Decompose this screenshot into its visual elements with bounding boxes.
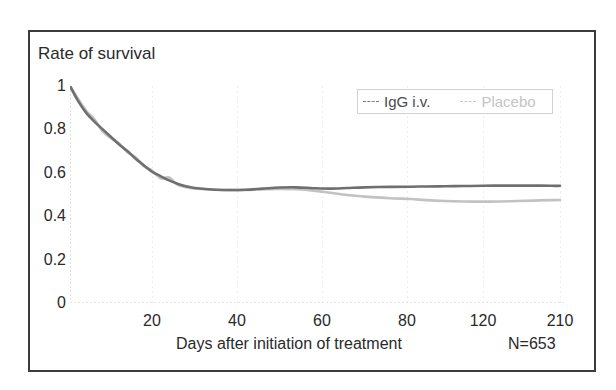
y-tick-label: 0 <box>32 295 66 311</box>
legend: IgG i.v. Placebo <box>357 89 553 114</box>
x-tick-label: 40 <box>228 312 246 330</box>
y-axis-title: Rate of survival <box>38 44 155 64</box>
y-tick-label: 0.2 <box>32 252 66 268</box>
legend-label-igg: IgG i.v. <box>384 94 430 110</box>
legend-dash-icon <box>363 101 379 102</box>
plot-area <box>70 86 566 303</box>
y-tick-label: 0.8 <box>32 121 66 137</box>
gridlines <box>153 86 561 303</box>
x-tick-label: 80 <box>398 312 416 330</box>
y-axis-tick-labels: 1 0.8 0.6 0.4 0.2 0 <box>30 86 66 303</box>
x-tick-label: 210 <box>547 312 574 330</box>
y-tick-label: 1 <box>32 78 66 94</box>
x-tick-label: 120 <box>470 312 497 330</box>
plot-svg <box>70 86 566 303</box>
survival-chart-figure: Rate of survival 1 0.8 0.6 0.4 0.2 0 20 … <box>0 0 616 390</box>
legend-item-igg: IgG i.v. <box>363 94 430 110</box>
x-axis-title: Days after initiation of treatment <box>176 334 402 353</box>
y-tick-label: 0.6 <box>32 165 66 181</box>
x-tick-label: 60 <box>313 312 331 330</box>
legend-item-placebo: Placebo <box>460 94 535 110</box>
x-axis-tick-labels: 20 40 60 80 120 210 <box>70 312 570 334</box>
x-tick-label: 20 <box>143 312 161 330</box>
legend-dash-icon <box>460 101 476 102</box>
sample-size-label: N=653 <box>508 334 556 353</box>
legend-label-placebo: Placebo <box>481 94 535 110</box>
y-tick-label: 0.4 <box>32 208 66 224</box>
